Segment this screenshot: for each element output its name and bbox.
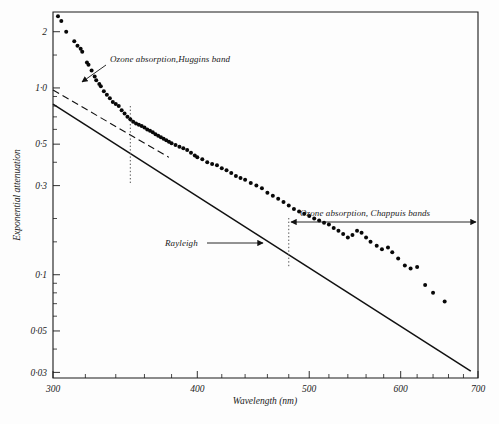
data-point <box>64 30 68 34</box>
data-point <box>271 194 275 198</box>
data-point <box>117 104 121 108</box>
data-point <box>215 163 219 167</box>
data-point <box>59 19 63 23</box>
data-point <box>108 96 112 100</box>
data-point <box>90 68 94 72</box>
x-tick-label: 600 <box>394 384 409 394</box>
data-point <box>123 111 127 115</box>
data-point <box>239 176 243 180</box>
data-point <box>409 266 413 270</box>
data-point <box>350 233 354 237</box>
data-point <box>229 171 233 175</box>
data-point <box>260 186 264 190</box>
y-tick-label: 0·1 <box>35 270 47 280</box>
data-point <box>195 155 199 159</box>
annotation-rayleigh: Rayleigh <box>164 238 263 248</box>
y-tick-label: 0·3 <box>35 181 47 191</box>
reference-line-Rayleigh <box>53 104 471 371</box>
data-point <box>93 75 97 79</box>
data-point <box>94 78 98 82</box>
data-point <box>177 145 181 149</box>
data-point <box>210 162 214 166</box>
plot-frame <box>53 12 478 378</box>
data-point <box>254 184 258 188</box>
data-point <box>105 93 109 97</box>
x-tick-label: 300 <box>45 384 61 394</box>
data-point <box>415 265 419 269</box>
data-point <box>56 14 60 18</box>
data-point <box>341 232 345 236</box>
data-point <box>423 283 427 287</box>
y-axis-title: Exponential attenuation <box>12 149 22 242</box>
y-tick-label: 0·5 <box>35 139 47 149</box>
data-point <box>431 291 435 295</box>
data-point <box>355 229 359 233</box>
data-point <box>403 264 407 268</box>
data-point <box>170 141 174 145</box>
y-tick-label: 0·03 <box>30 368 47 378</box>
data-point <box>443 299 447 303</box>
data-point <box>276 197 280 201</box>
data-point <box>390 250 394 254</box>
y-tick-label: 2 <box>42 27 47 37</box>
data-point <box>386 245 390 249</box>
data-point <box>346 236 350 240</box>
data-point <box>265 191 269 195</box>
band-boundary-lines <box>130 106 288 268</box>
data-point <box>181 146 185 150</box>
data-point <box>234 174 238 178</box>
y-tick-label: 1·0 <box>35 83 47 93</box>
data-point <box>281 200 285 204</box>
data-point <box>369 240 373 244</box>
data-point <box>72 39 76 43</box>
data-point <box>86 63 90 67</box>
data-point <box>364 236 368 240</box>
data-point <box>220 166 224 170</box>
data-point <box>249 181 253 185</box>
data-point <box>200 157 204 161</box>
attenuation-log-log-chart: 300400500600700 21·00·50·30·10·050·03 Oz… <box>0 0 499 424</box>
data-point <box>75 44 79 48</box>
data-point <box>332 226 336 230</box>
y-axis-tick-labels: 21·00·50·30·10·050·03 <box>30 27 47 378</box>
x-tick-label: 700 <box>471 384 486 394</box>
data-point <box>396 257 400 261</box>
y-tick-label: 0·05 <box>30 326 47 336</box>
annotation-huggins-band: Ozone absorption,Huggins band <box>82 54 231 82</box>
data-point <box>205 160 209 164</box>
x-tick-label: 500 <box>302 384 317 394</box>
data-point <box>120 108 124 112</box>
data-point <box>322 221 326 225</box>
data-point <box>292 207 296 211</box>
data-point <box>327 222 331 226</box>
x-axis-tick-labels: 300400500600700 <box>45 384 486 394</box>
data-point <box>225 168 229 172</box>
x-tick-label: 400 <box>190 384 205 394</box>
data-point <box>80 50 84 54</box>
y-axis-ticks <box>53 32 60 373</box>
data-point <box>99 84 103 88</box>
data-point <box>380 247 384 251</box>
data-point <box>174 143 178 147</box>
data-point <box>336 229 340 233</box>
huggins-band-label: Ozone absorption,Huggins band <box>110 54 231 64</box>
data-point <box>360 231 364 235</box>
data-point <box>185 148 189 152</box>
data-point <box>287 203 291 207</box>
figure-canvas: 300400500600700 21·00·50·30·10·050·03 Oz… <box>0 0 499 424</box>
data-point <box>189 151 193 155</box>
rayleigh-label: Rayleigh <box>164 238 198 248</box>
data-point <box>375 244 379 248</box>
data-point <box>102 89 106 93</box>
x-axis-title: Wavelength (nm) <box>233 396 297 407</box>
data-point <box>243 178 247 182</box>
x-axis-ticks <box>53 371 478 378</box>
chappuis-bands-label: Ozone absorption, Chappuis bands <box>300 208 431 218</box>
reference-lines <box>53 90 471 371</box>
reference-line-extrapolated-rayleigh <box>53 90 169 157</box>
